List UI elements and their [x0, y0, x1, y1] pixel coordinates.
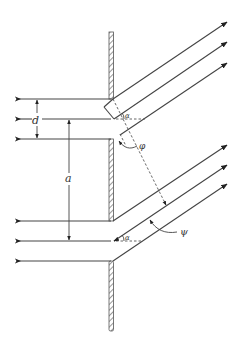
phi-arc — [119, 141, 137, 148]
a-dimension: a — [65, 120, 72, 240]
label-psi: ψ — [180, 226, 188, 237]
wall-top-segment — [109, 32, 114, 99]
label-alpha-upper: α — [125, 112, 130, 120]
path-difference-line-lower — [120, 134, 126, 146]
lower-slit-incident-rays — [16, 221, 111, 261]
label-d: d — [32, 114, 39, 127]
d-dimension: d — [32, 100, 39, 138]
alpha-arc-upper — [122, 113, 124, 119]
lower-slit-diffracted-rays — [113, 145, 227, 261]
label-a: a — [65, 172, 72, 185]
label-alpha-lower: α — [125, 234, 130, 242]
double-slit-diagram: d a α α φ ψ — [0, 0, 241, 349]
alpha-arc-lower — [122, 235, 124, 241]
wall-bottom-segment — [109, 261, 114, 331]
label-phi: φ — [139, 141, 146, 151]
upper-slit-incident-rays — [16, 99, 111, 139]
upper-slit-diffracted-rays — [104, 22, 227, 135]
wall-middle-segment — [109, 139, 114, 221]
screen-wall — [109, 32, 114, 331]
